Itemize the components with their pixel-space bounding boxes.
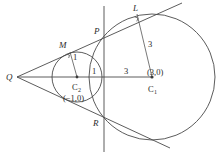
diagram-canvas: Q M L P R C 1 C 2 (3,0) (−1,0) 1 3 1 3 bbox=[0, 0, 223, 158]
coord-label-C2: (−1,0) bbox=[63, 93, 84, 103]
label-M: M bbox=[58, 40, 67, 50]
measure-large-radius: 3 bbox=[148, 39, 152, 49]
measure-small-radius: 1 bbox=[73, 52, 77, 62]
label-Q: Q bbox=[6, 72, 13, 82]
coord-label-C1: (3,0) bbox=[147, 67, 163, 77]
label-L: L bbox=[132, 3, 138, 13]
measure-axis-large: 3 bbox=[124, 66, 128, 76]
label-C1-subscript: 1 bbox=[154, 89, 157, 95]
right-angle-at-L-icon bbox=[135, 17, 138, 22]
center-dot-C2 bbox=[76, 76, 79, 79]
measure-axis-small: 1 bbox=[92, 66, 96, 76]
geometry-figure: Q M L P R C 1 C 2 (3,0) (−1,0) 1 3 1 3 bbox=[0, 0, 223, 158]
label-P: P bbox=[93, 26, 100, 36]
label-R: R bbox=[92, 118, 99, 128]
